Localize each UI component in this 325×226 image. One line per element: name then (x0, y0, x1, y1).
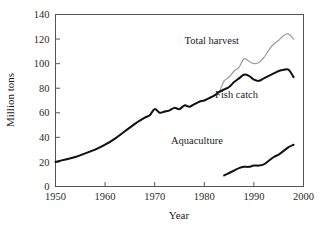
x-axis-title: Year (169, 209, 190, 221)
y-tick-label: 120 (34, 34, 50, 45)
series-label-fish-catch: Fish catch (215, 89, 259, 100)
x-tick-label: 1960 (95, 191, 116, 202)
series-label-aquaculture: Aquaculture (171, 135, 223, 146)
x-tick-label: 1990 (243, 191, 264, 202)
x-tick-label: 2000 (293, 191, 314, 202)
x-tick-label: 1970 (144, 191, 165, 202)
y-tick-label: 80 (39, 83, 50, 94)
chart-canvas: 195019601970198019902000 020406080100120… (0, 0, 325, 226)
y-axis-title: Million tons (4, 73, 16, 127)
y-tick-label: 100 (34, 58, 50, 69)
y-tick-label: 20 (39, 157, 50, 168)
series-label-total-harvest: Total harvest (185, 35, 239, 46)
y-tick-label: 140 (34, 9, 50, 20)
fisheries-harvest-line-chart: 195019601970198019902000 020406080100120… (0, 0, 325, 226)
x-tick-label: 1950 (45, 191, 66, 202)
y-tick-label: 0 (44, 181, 49, 192)
y-tick-label: 60 (39, 107, 50, 118)
x-tick-label: 1980 (194, 191, 215, 202)
y-tick-label: 40 (39, 132, 50, 143)
